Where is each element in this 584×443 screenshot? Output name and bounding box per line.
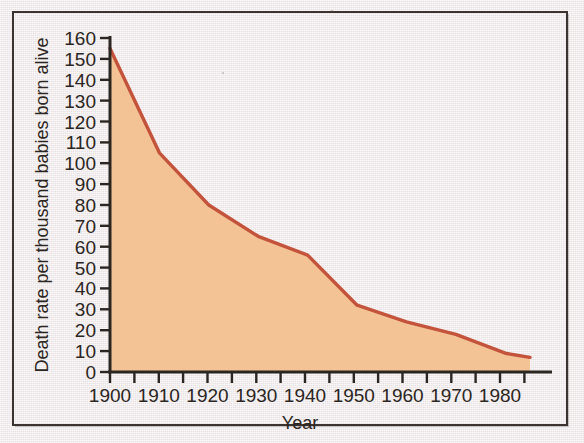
- x-tick-label: 1970: [430, 385, 472, 406]
- y-tick-label: 70: [75, 216, 96, 237]
- x-tick-label: 1960: [381, 385, 423, 406]
- y-tick-labels: 160 150 140 130 120 110 100 90 80 70 60 …: [64, 28, 96, 383]
- y-tick-label: 90: [75, 174, 96, 195]
- y-tick-label: 10: [75, 341, 96, 362]
- data-area-fill: [110, 48, 530, 372]
- x-tick-label: 1910: [138, 385, 180, 406]
- y-tick-label: 50: [75, 258, 96, 279]
- x-tick-label: 1920: [186, 385, 228, 406]
- x-tick-label: 1900: [89, 385, 131, 406]
- y-tick-label: 140: [64, 70, 96, 91]
- y-tick-label: 0: [85, 362, 96, 383]
- y-tick-label: 160: [64, 28, 96, 49]
- y-axis-title: Death rate per thousand babies born aliv…: [32, 37, 52, 372]
- y-tick-label: 80: [75, 195, 96, 216]
- x-tick-marks: [110, 372, 524, 383]
- y-tick-label: 100: [64, 153, 96, 174]
- x-tick-labels: 1900 1910 1920 1930 1940 1950 1960 1970 …: [89, 385, 521, 406]
- y-tick-label: 130: [64, 91, 96, 112]
- y-tick-label: 30: [75, 299, 96, 320]
- x-tick-label: 1980: [479, 385, 521, 406]
- y-tick-label: 120: [64, 112, 96, 133]
- chart-page: 160 150 140 130 120 110 100 90 80 70 60 …: [0, 0, 584, 443]
- x-tick-label: 1950: [333, 385, 375, 406]
- y-tick-label: 60: [75, 237, 96, 258]
- y-tick-label: 110: [66, 132, 96, 153]
- x-axis-title: Year: [282, 413, 318, 433]
- y-tick-label: 150: [64, 49, 96, 70]
- x-tick-label: 1930: [235, 385, 277, 406]
- chart-svg: 160 150 140 130 120 110 100 90 80 70 60 …: [0, 0, 584, 443]
- x-tick-label: 1940: [284, 385, 326, 406]
- y-tick-label: 20: [75, 320, 96, 341]
- y-tick-label: 40: [75, 278, 96, 299]
